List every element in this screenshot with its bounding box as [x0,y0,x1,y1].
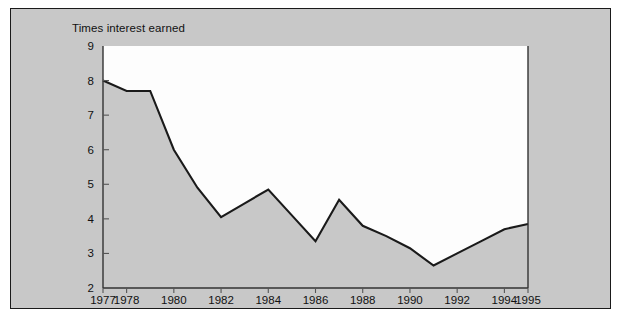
x-tick-label: 1978 [114,294,140,306]
y-tick-label: 3 [88,247,94,259]
x-tick-label: 1982 [208,294,234,306]
x-tick-label: 1992 [444,294,470,306]
x-tick-label: 1988 [350,294,376,306]
y-tick-label: 6 [88,144,94,156]
y-tick-label: 4 [88,213,95,225]
x-tick-label: 1977 [90,294,116,306]
plot-canvas: 98765432 1977197819801982198419861988199… [0,0,625,322]
x-tick-label: 1986 [303,294,329,306]
y-tick-label: 9 [88,40,94,52]
x-tick-label: 1990 [397,294,423,306]
x-tick-label: 1980 [161,294,187,306]
y-tick-label: 7 [88,109,94,121]
x-tick-label: 1984 [255,294,281,306]
x-tick-group: 1977197819801982198419861988199019921994… [90,288,541,306]
y-tick-label: 2 [88,282,94,294]
x-tick-label: 1995 [515,294,541,306]
y-tick-label: 5 [88,178,94,190]
y-tick-label: 8 [88,75,94,87]
x-tick-label: 1994 [492,294,518,306]
chart-figure: Times interest earned 98765432 197719781… [0,0,625,322]
